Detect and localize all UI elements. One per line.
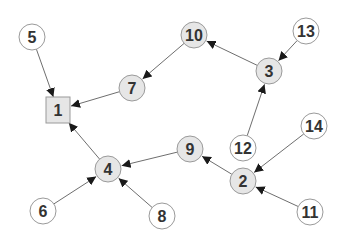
node-label: 3: [265, 63, 274, 80]
edge-4-to-1: [69, 123, 100, 159]
node-5: 5: [19, 24, 45, 50]
node-11: 11: [297, 199, 323, 225]
edge-5-to-1: [36, 49, 53, 97]
edge-9-to-4: [122, 152, 178, 166]
node-label: 10: [185, 27, 203, 44]
edge-10-to-7: [143, 43, 185, 79]
node-label: 6: [39, 203, 48, 220]
node-label: 11: [302, 204, 319, 221]
node-label: 9: [186, 141, 195, 158]
node-7: 7: [119, 75, 145, 101]
node-label: 7: [128, 80, 137, 97]
node-14: 14: [301, 113, 327, 139]
node-4: 4: [95, 156, 121, 182]
edge-3-to-10: [207, 41, 258, 65]
node-10: 10: [181, 22, 207, 48]
node-label: 5: [28, 29, 37, 46]
edge-8-to-4: [119, 178, 153, 207]
node-label: 4: [104, 161, 113, 178]
node-label: 1: [54, 102, 63, 119]
edge-13-to-3: [279, 41, 298, 61]
node-12: 12: [230, 135, 256, 161]
edge-12-to-3: [247, 84, 264, 135]
edge-2-to-9: [202, 156, 232, 174]
node-label: 12: [234, 140, 252, 157]
edge-14-to-2: [254, 134, 304, 172]
node-13: 13: [293, 18, 319, 44]
edge-7-to-1: [71, 92, 120, 106]
node-8: 8: [149, 203, 175, 229]
node-label: 2: [239, 173, 248, 190]
node-label: 8: [158, 208, 167, 225]
node-label: 14: [305, 118, 323, 135]
edge-11-to-2: [256, 187, 299, 207]
node-2: 2: [230, 168, 256, 194]
nodes-layer: 1234567891011121314: [19, 18, 327, 229]
node-1: 1: [46, 97, 70, 123]
node-3: 3: [256, 58, 282, 84]
edge-6-to-4: [54, 177, 96, 204]
directed-graph-diagram: 1234567891011121314: [0, 0, 344, 242]
node-label: 13: [297, 23, 315, 40]
node-6: 6: [30, 198, 56, 224]
node-9: 9: [177, 136, 203, 162]
